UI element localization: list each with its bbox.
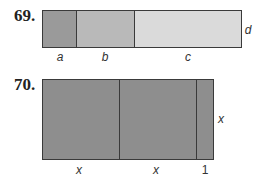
problem-number: 69. bbox=[14, 6, 35, 26]
area-model-rectangle bbox=[42, 10, 242, 48]
label-x-1: x bbox=[76, 163, 82, 177]
label-c: c bbox=[185, 50, 191, 64]
segment-a bbox=[43, 11, 77, 47]
area-model-rectangle bbox=[42, 79, 214, 160]
problem-number: 70. bbox=[14, 75, 35, 95]
label-d: d bbox=[245, 23, 252, 37]
segment-x-1 bbox=[43, 80, 120, 159]
segment-c bbox=[135, 11, 241, 47]
segment-x-2 bbox=[120, 80, 197, 159]
label-1: 1 bbox=[202, 163, 209, 177]
label-b: b bbox=[102, 50, 109, 64]
segment-1 bbox=[197, 80, 213, 159]
label-a: a bbox=[57, 50, 64, 64]
label-side-x: x bbox=[218, 112, 224, 126]
label-x-2: x bbox=[153, 163, 159, 177]
segment-b bbox=[77, 11, 135, 47]
